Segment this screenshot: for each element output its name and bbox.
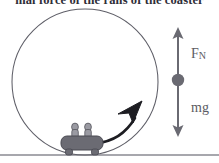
normal-force-subscript: N — [199, 50, 206, 61]
physics-figure: mal force of the rails of the coaster — [0, 0, 219, 163]
weight-label: mg — [191, 101, 209, 115]
motion-arrow-icon — [96, 101, 142, 143]
free-body-diagram — [172, 27, 184, 137]
normal-force-symbol: F — [191, 46, 199, 61]
loop-diagram — [0, 0, 219, 163]
car-body — [61, 136, 103, 150]
object-dot — [172, 74, 184, 86]
normal-force-label: FN — [191, 47, 206, 61]
coaster-car-icon — [61, 123, 103, 155]
car-wheel — [92, 149, 99, 155]
car-wheel — [66, 149, 73, 155]
